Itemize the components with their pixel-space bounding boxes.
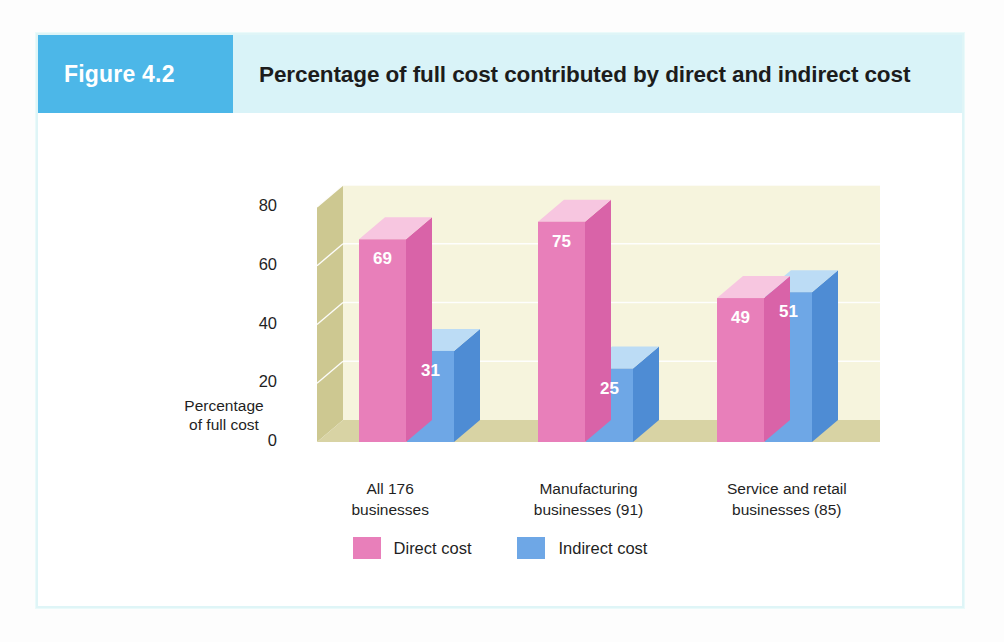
figure-title-area: Percentage of full cost contributed by d… bbox=[233, 35, 962, 113]
y-axis-title-line-1: Percentage bbox=[164, 396, 284, 415]
category-label-line: businesses bbox=[291, 499, 489, 520]
figure-card: Figure 4.2 Percentage of full cost contr… bbox=[36, 33, 964, 608]
x-axis-category-3: Service and retailbusinesses (85) bbox=[688, 478, 886, 530]
bar-direct bbox=[764, 276, 790, 442]
category-label-line: businesses (85) bbox=[688, 499, 886, 520]
x-axis-category-labels: All 176businessesManufacturingbusinesses… bbox=[291, 478, 886, 530]
y-axis-title: Percentage of full cost bbox=[164, 396, 284, 434]
x-axis-category-2: Manufacturingbusinesses (91) bbox=[489, 478, 687, 530]
bar-value-label: 31 bbox=[421, 361, 440, 380]
chart-legend: Direct costIndirect cost bbox=[38, 537, 962, 559]
legend-label: Direct cost bbox=[394, 539, 472, 558]
legend-item-direct-cost[interactable]: Direct cost bbox=[353, 537, 472, 559]
figure-header: Figure 4.2 Percentage of full cost contr… bbox=[38, 35, 962, 113]
bar-value-label: 49 bbox=[731, 308, 750, 327]
category-label-line: businesses (91) bbox=[489, 499, 687, 520]
chart-container: Percentage of full cost 806040200 514925… bbox=[38, 113, 962, 610]
figure-number-badge: Figure 4.2 bbox=[38, 35, 233, 113]
bar-direct bbox=[538, 222, 585, 442]
figure-title: Percentage of full cost contributed by d… bbox=[259, 61, 910, 88]
category-label-line: Manufacturing bbox=[489, 478, 687, 499]
bar-value-label: 25 bbox=[600, 379, 619, 398]
bar-indirect bbox=[812, 270, 838, 442]
legend-swatch-icon bbox=[353, 537, 381, 559]
legend-item-indirect-cost[interactable]: Indirect cost bbox=[517, 537, 647, 559]
y-axis-tick-0: 0 bbox=[233, 431, 277, 450]
legend-label: Indirect cost bbox=[558, 539, 647, 558]
y-axis-tick-40: 40 bbox=[233, 314, 277, 333]
category-label-line: Service and retail bbox=[688, 478, 886, 499]
plot-area: 514925753169 bbox=[291, 181, 886, 476]
category-label-line: All 176 bbox=[291, 478, 489, 499]
bar-direct bbox=[585, 200, 611, 442]
y-axis-tick-20: 20 bbox=[233, 372, 277, 391]
bar-direct bbox=[359, 239, 406, 442]
bar-value-label: 75 bbox=[552, 232, 571, 251]
bar-value-label: 51 bbox=[779, 302, 798, 321]
bar-chart-3d: 514925753169 bbox=[291, 181, 886, 476]
figure-page: Figure 4.2 Percentage of full cost contr… bbox=[0, 0, 1004, 642]
bar-value-label: 69 bbox=[373, 249, 392, 268]
legend-swatch-icon bbox=[517, 537, 545, 559]
x-axis-category-1: All 176businesses bbox=[291, 478, 489, 530]
bar-direct bbox=[406, 217, 432, 442]
y-axis-tick-60: 60 bbox=[233, 255, 277, 274]
figure-number-label: Figure 4.2 bbox=[38, 61, 175, 88]
y-axis-tick-80: 80 bbox=[233, 196, 277, 215]
